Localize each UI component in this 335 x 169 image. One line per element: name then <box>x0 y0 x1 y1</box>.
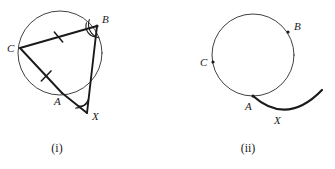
figure-ii-group: B C A X (ii) <box>200 14 322 155</box>
figure-i-dot-B <box>95 24 98 27</box>
figure-i-group: C B A X (i) <box>7 11 109 155</box>
figure-ii-dot-A <box>251 94 254 97</box>
figure-i-chord-CA <box>20 48 62 93</box>
figure-board: C B A X (i) B C A X (ii) <box>0 0 335 169</box>
figure-i-label-C: C <box>7 42 15 54</box>
figure-ii-dot-C <box>211 60 214 63</box>
figure-ii-label-C: C <box>200 56 208 68</box>
figure-ii-caption: (ii) <box>241 141 256 155</box>
figure-ii-circle <box>212 14 294 96</box>
figure-ii-label-A: A <box>244 100 252 112</box>
figure-i-label-B: B <box>102 13 109 25</box>
figure-i-segment-AX <box>62 93 87 113</box>
figure-i-label-X: X <box>91 110 100 122</box>
figure-i-caption: (i) <box>51 141 62 155</box>
figure-ii-dot-B <box>286 30 289 33</box>
figure-ii-label-X: X <box>273 114 282 126</box>
figure-ii-label-B: B <box>294 20 301 32</box>
figure-i-label-A: A <box>53 95 61 107</box>
geometry-canvas: C B A X (i) B C A X (ii) <box>0 0 335 169</box>
figure-ii-tangent-arc <box>253 90 322 110</box>
figure-i-circle <box>18 11 102 95</box>
